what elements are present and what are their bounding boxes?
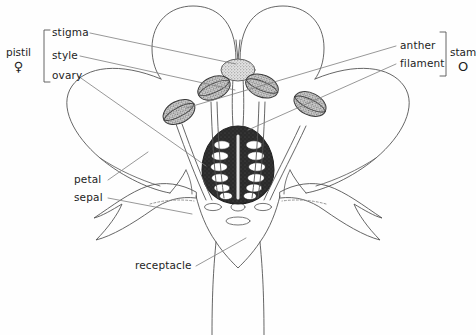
stamen-bracket	[440, 32, 446, 76]
stamen-far-right	[264, 87, 330, 200]
leader-petal	[108, 152, 148, 180]
group-label-pistil: pistil ♀	[6, 46, 31, 75]
leader-ovary	[78, 76, 206, 166]
sepal-right	[280, 184, 382, 240]
label-filament: filament	[400, 58, 445, 69]
label-sepal: sepal	[74, 192, 103, 203]
leader-style	[80, 56, 235, 90]
side-petal-right	[290, 68, 409, 193]
stem	[212, 242, 264, 335]
stamen-far-left	[159, 94, 212, 200]
label-anther: anther	[400, 40, 436, 51]
label-style: style	[52, 50, 78, 61]
label-stigma: stigma	[52, 27, 89, 38]
label-ovary: ovary	[52, 70, 82, 81]
diagram-canvas: pistil ♀ stam O stigma style ovary anthe…	[0, 0, 476, 335]
style	[232, 78, 244, 126]
female-symbol-icon: ♀	[6, 59, 31, 75]
leader-receptacle	[196, 238, 246, 266]
stamen-label: stam	[450, 46, 476, 59]
group-label-stamen: stam O	[450, 46, 476, 75]
male-symbol-icon: O	[450, 59, 476, 75]
receptacle	[196, 196, 280, 268]
pistil-bracket	[44, 30, 50, 82]
label-petal: petal	[74, 174, 101, 185]
leader-stigma	[90, 33, 236, 64]
pistil-label: pistil	[6, 46, 31, 59]
label-receptacle: receptacle	[135, 260, 192, 271]
